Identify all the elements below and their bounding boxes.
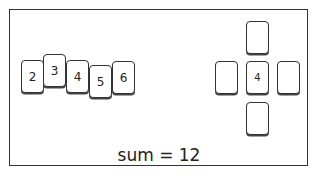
cross-slot-left[interactable]: [215, 61, 238, 94]
cross-slot-bottom[interactable]: [246, 102, 269, 135]
cross-slot-top[interactable]: [246, 21, 269, 54]
sum-label: sum = 12: [0, 145, 318, 165]
hand-card[interactable]: 2: [21, 60, 44, 93]
cross-slot-center[interactable]: 4: [246, 61, 269, 94]
hand-card[interactable]: 3: [43, 54, 66, 87]
cross-slot-right[interactable]: [277, 61, 300, 94]
hand-card[interactable]: 5: [89, 65, 112, 98]
hand-card[interactable]: 6: [112, 61, 135, 94]
hand-card[interactable]: 4: [66, 60, 89, 93]
